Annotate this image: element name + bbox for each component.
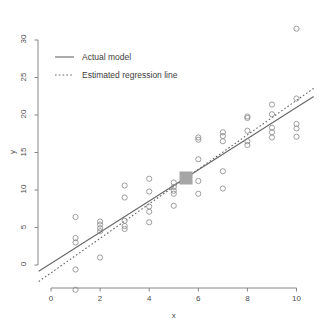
x-tick-label: 0 — [41, 295, 61, 303]
y-tick-label: 0 — [20, 256, 28, 272]
x-tick-label: 4 — [139, 295, 159, 303]
scatter-plot-figure: 0246810051015202530 y x Actual model Est… — [0, 0, 330, 327]
y-tick-label: 30 — [20, 31, 28, 47]
data-points — [73, 26, 299, 292]
y-tick-label: 20 — [20, 106, 28, 122]
legend-label-estimated-regression-line: Estimated regression line — [82, 71, 177, 80]
x-axis-title: x — [164, 312, 184, 320]
y-tick-label: 5 — [20, 219, 28, 235]
x-tick-label: 2 — [90, 295, 110, 303]
y-tick-label: 25 — [20, 69, 28, 85]
plot-canvas — [0, 0, 330, 327]
x-tick-label: 10 — [287, 295, 307, 303]
y-tick-label: 10 — [20, 181, 28, 197]
legend-label-actual-model: Actual model — [82, 53, 131, 62]
y-tick-label: 15 — [20, 144, 28, 160]
trend-lines — [39, 88, 314, 281]
x-tick-label: 8 — [237, 295, 257, 303]
legend-line-samples — [55, 57, 74, 75]
y-axis-title: y — [9, 145, 17, 159]
x-tick-label: 6 — [188, 295, 208, 303]
centroid-marker — [180, 172, 193, 185]
